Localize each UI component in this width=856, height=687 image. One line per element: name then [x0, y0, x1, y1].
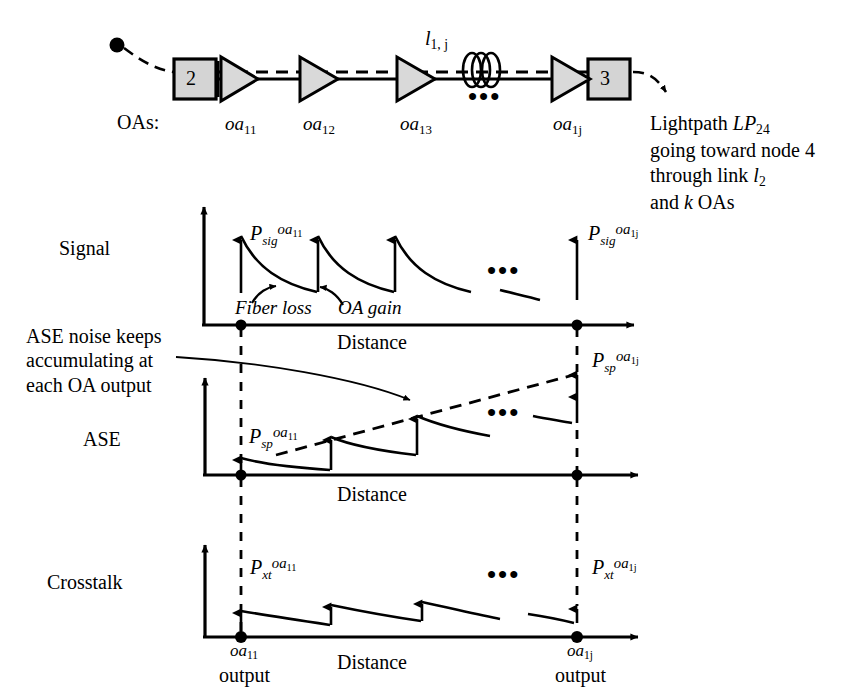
ase-side-note-line-2: accumulating at [26, 348, 162, 372]
lightpath-annotation-line-1: Lightpath LP24 [650, 111, 815, 138]
ase-ellipsis: ••• [487, 398, 520, 428]
crosstalk-tick-left-word: output [219, 663, 269, 687]
topology-ellipsis: ••• [468, 82, 501, 112]
lightpath-line3-pre: through link [650, 164, 753, 186]
signal-x-axis-label: Distance [337, 330, 407, 354]
crosstalk-tick-right-sub: 1j [584, 649, 593, 662]
lightpath-annotation: Lightpath LP24 going toward node 4 throu… [650, 111, 815, 215]
ase-p2-base: P [592, 349, 604, 371]
amplifier-oa11 [218, 57, 258, 101]
ase-rising-envelope [276, 374, 577, 455]
amplifier-oa1j [552, 57, 590, 101]
crosstalk-waveform [241, 602, 577, 636]
amp-label-oa11-base: oa [225, 113, 244, 134]
ase-side-note: ASE noise keeps accumulating at each OA … [26, 324, 162, 397]
ase-last-peak-label: Pspoa1j [592, 347, 639, 376]
ase-p1-supsub: 11 [288, 431, 298, 442]
signal-p1-sub: sig [262, 233, 277, 248]
crosstalk-tick-left-sub: 11 [247, 649, 258, 662]
xt-p1-supsub: 11 [287, 562, 297, 573]
ase-p1-sub: sp [261, 436, 273, 451]
ase-p2-sup: oa [616, 348, 631, 364]
signal-p2-supsub: 1j [630, 228, 638, 239]
crosstalk-tick-label-right: oa1j output [555, 641, 605, 687]
chart-ase [176, 357, 638, 481]
amp-label-oa12-base: oa [303, 113, 322, 134]
signal-p1-sup: oa [278, 221, 293, 237]
amp-label-oa12-sub: 12 [322, 122, 335, 137]
link-label-sub: 1, j [431, 37, 448, 52]
xt-p2-supsub: 1j [629, 562, 637, 573]
outgoing-lightpath-dashed [633, 72, 666, 92]
ase-side-note-line-1: ASE noise keeps [26, 324, 162, 348]
lightpath-annotation-line-3: through link l2 [650, 163, 815, 190]
amp-label-oa13-sub: 13 [419, 122, 432, 137]
crosstalk-last-peak-label: Pxtoa1j [592, 554, 637, 583]
lightpath-line1-sub: 24 [756, 122, 770, 137]
signal-p1-base: P [250, 222, 262, 244]
amp-label-oa1j: oa1j [553, 112, 582, 137]
xt-p2-base: P [592, 556, 604, 578]
signal-p2-base: P [588, 222, 600, 244]
amp-label-oa13-base: oa [400, 113, 419, 134]
source-node-dot [110, 38, 125, 53]
signal-p1-supsub: 11 [292, 228, 302, 239]
amp-label-oa1j-base: oa [553, 113, 572, 134]
ase-first-peak-label: Pspoa11 [249, 423, 298, 452]
amplifier-oa13 [397, 57, 435, 101]
crosstalk-tick-left-base: oa [230, 641, 247, 660]
crosstalk-tick-right-name: oa1j [555, 641, 605, 663]
ase-y-axis-label: ASE [83, 427, 121, 451]
ase-note-pointer [176, 357, 410, 400]
signal-ellipsis: ••• [487, 256, 520, 286]
figure-canvas: OAs: 2 3 oa11 oa12 oa13 oa1j l1, j ••• L… [0, 0, 856, 687]
xt-p1-sub: xt [262, 567, 272, 582]
node-box-3-label: 3 [600, 66, 610, 90]
lightpath-line4-italic: k [684, 191, 693, 213]
xt-p2-sub: xt [604, 567, 614, 582]
crosstalk-tick-label-left: oa11 output [219, 641, 269, 687]
crosstalk-tick-left-name: oa11 [219, 641, 269, 663]
crosstalk-y-axis-label: Crosstalk [47, 570, 123, 594]
signal-first-peak-label: Psigoa11 [250, 220, 302, 249]
crosstalk-first-peak-label: Pxtoa11 [250, 554, 297, 583]
oas-label: OAs: [117, 110, 159, 134]
amp-label-oa13: oa13 [400, 112, 432, 137]
ase-p1-base: P [249, 425, 261, 447]
crosstalk-x-axis-label: Distance [337, 650, 407, 674]
xt-p1-sup: oa [272, 555, 287, 571]
amp-label-oa11: oa11 [225, 112, 256, 137]
node-box-2-label: 2 [186, 66, 196, 90]
fiber-loss-label: Fiber loss [235, 296, 312, 319]
ase-p2-sub: sp [604, 360, 616, 375]
lightpath-line1-italic: LP [733, 112, 756, 134]
alignment-guides [241, 328, 577, 634]
lightpath-annotation-line-2: going toward node 4 [650, 138, 815, 162]
crosstalk-tick-right-base: oa [567, 641, 584, 660]
lightpath-line4-pre: and [650, 191, 684, 213]
oa-gain-label: OA gain [338, 296, 402, 319]
signal-last-peak-label: Psigoa1j [588, 220, 639, 249]
incoming-lightpath-dashed [124, 48, 174, 72]
amp-label-oa12: oa12 [303, 112, 335, 137]
amp-label-oa11-sub: 11 [244, 122, 256, 137]
lightpath-line3-sub: 2 [759, 174, 766, 189]
lightpath-line1-pre: Lightpath [650, 112, 733, 134]
ase-p2-supsub: 1j [631, 355, 639, 366]
signal-y-axis-label: Signal [59, 236, 110, 260]
lightpath-line4-post: OAs [693, 191, 735, 213]
ase-p1-sup: oa [273, 424, 288, 440]
amp-label-oa1j-sub: 1j [572, 122, 582, 137]
xt-p1-base: P [250, 556, 262, 578]
signal-p2-sup: oa [616, 221, 631, 237]
crosstalk-ellipsis: ••• [487, 560, 520, 590]
link-label: l1, j [425, 26, 448, 53]
amplifier-oa12 [300, 57, 338, 101]
ase-x-axis-label: Distance [337, 482, 407, 506]
signal-p2-sub: sig [600, 233, 615, 248]
lightpath-annotation-line-4: and k OAs [650, 190, 815, 214]
xt-p2-sup: oa [614, 555, 629, 571]
crosstalk-tick-right-word: output [555, 663, 605, 687]
ase-side-note-line-3: each OA output [26, 373, 162, 397]
